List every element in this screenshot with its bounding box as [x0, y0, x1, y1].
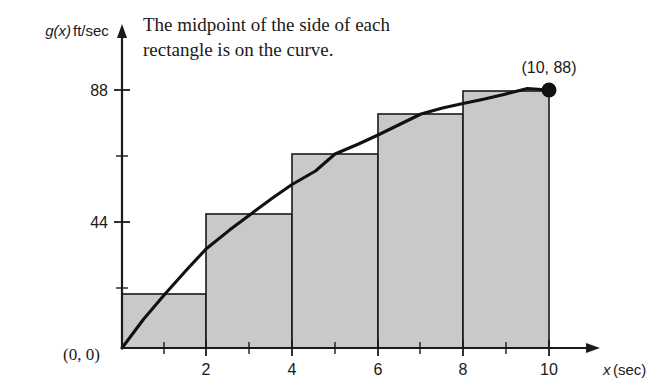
endpoint-marker-dot [542, 83, 557, 98]
bar-interval-4-6 [292, 154, 378, 348]
midpoint-rule-riemann-sum-figure: 88 44 2 4 6 8 10 g(x) ft/sec x (sec) (0,… [0, 0, 658, 386]
annotation-line-1: The midpoint of the side of each [143, 14, 390, 35]
x-tick-label-4: 4 [288, 361, 297, 378]
y-axis-label-units: ft/sec [73, 22, 109, 39]
x-tick-label-6: 6 [374, 361, 383, 378]
bar-interval-6-8 [378, 114, 463, 348]
y-axis-label-function: g(x) [45, 22, 71, 39]
y-tick-label-44: 44 [90, 214, 108, 231]
endpoint-coordinate-label: (10, 88) [521, 59, 576, 76]
bar-interval-2-4 [206, 214, 292, 348]
x-axis-label-variable: x [602, 361, 611, 378]
x-tick-label-8: 8 [459, 361, 468, 378]
x-tick-label-10: 10 [540, 361, 558, 378]
chart-svg: 88 44 2 4 6 8 10 g(x) ft/sec x (sec) (0,… [0, 0, 658, 386]
bar-interval-0-2 [122, 294, 206, 348]
bar-interval-8-10 [463, 91, 549, 348]
annotation-line-2: rectangle is on the curve. [143, 39, 333, 60]
y-tick-label-88: 88 [90, 82, 108, 99]
origin-point-label: (0, 0) [63, 345, 100, 364]
x-axis-label-units: (sec) [613, 361, 646, 378]
x-tick-label-2: 2 [202, 361, 211, 378]
